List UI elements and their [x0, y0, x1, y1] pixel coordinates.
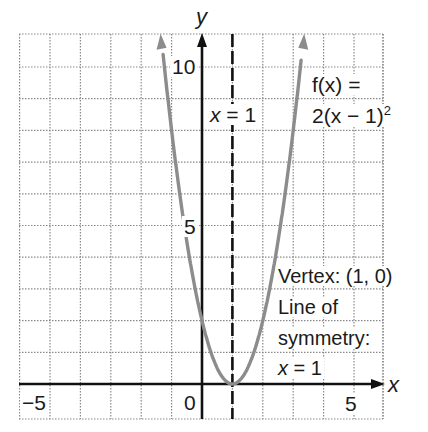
function-label-exponent: 2 — [384, 103, 391, 118]
x-axis-label: x — [388, 374, 399, 396]
symmetry-annotation: symmetry: — [276, 328, 372, 348]
x-tick-neg5: −5 — [20, 392, 48, 413]
x-tick-5: 5 — [343, 393, 359, 414]
function-label-line1: f(x) = — [310, 74, 362, 95]
y-tick-10: 10 — [170, 56, 197, 77]
function-label-text: f(x) = — [312, 73, 360, 96]
line-of-annotation: Line of — [276, 297, 340, 317]
symmetry-label-var: x — [210, 103, 221, 126]
symmetry-eq-var: x — [278, 357, 288, 379]
symmetry-label-rest: = 1 — [221, 103, 257, 126]
symmetry-line-label: x = 1 — [208, 104, 258, 125]
y-tick-5: 5 — [182, 216, 198, 237]
symmetry-eq-rest: = 1 — [288, 357, 322, 379]
symmetry-equation-annotation: x = 1 — [276, 358, 324, 378]
x-tick-0: 0 — [182, 392, 198, 413]
y-axis-label: y — [196, 6, 207, 28]
function-label-line2: 2(x − 1)2 — [310, 104, 393, 126]
plot-area — [0, 0, 428, 432]
parabola-graph: y x 10 5 −5 0 5 x = 1 f(x) = 2(x − 1)2 V… — [0, 0, 428, 432]
vertex-annotation: Vertex: (1, 0) — [276, 266, 395, 286]
function-label-expr: 2(x − 1) — [312, 104, 384, 127]
